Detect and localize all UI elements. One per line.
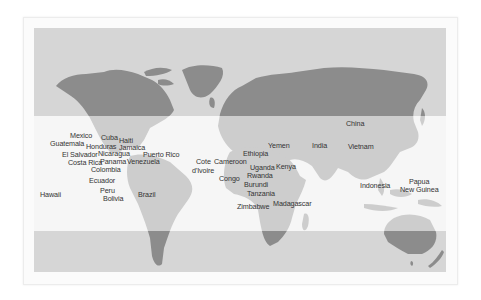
country-label-congo: Congo (219, 175, 240, 182)
country-label-cote-divoire: Cote (196, 158, 211, 165)
country-label-yemen: Yemen (268, 142, 290, 149)
country-label-colombia: Colombia (91, 166, 121, 173)
country-label-indonesia: Indonesia (360, 182, 390, 189)
country-label-rwanda: Rwanda (247, 172, 273, 179)
country-label-tanzania: Tanzania (247, 190, 275, 197)
country-label-papua: Papua (409, 178, 429, 185)
country-label-bolivia: Bolivia (103, 195, 123, 202)
country-label-venezuela: Venezuela (127, 158, 160, 165)
country-label-nicaragua: Nicaragua (98, 150, 130, 157)
country-label-panama: Panama (100, 158, 126, 165)
country-label-china: China (346, 120, 364, 127)
country-label-new-guinea: New Guinea (400, 186, 439, 193)
country-label-el-salvador: El Salvador (62, 151, 98, 158)
country-label-vietnam: Vietnam (348, 143, 374, 150)
country-label-hawaii: Hawaii (40, 191, 61, 198)
country-label-kenya: Kenya (276, 163, 296, 170)
country-label-uganda: Uganda (250, 164, 275, 171)
country-label-brazil: Brazil (138, 191, 155, 198)
country-label-burundi: Burundi (244, 181, 268, 188)
country-label-mexico: Mexico (70, 132, 92, 139)
country-label-cuba: Cuba (101, 134, 118, 141)
country-label-india: India (312, 142, 327, 149)
country-label-ethiopia: Ethiopia (243, 150, 268, 157)
country-label-cameroon: Cameroon (214, 158, 247, 165)
country-label-zimbabwe: Zimbabwe (237, 203, 269, 210)
country-label-peru: Peru (100, 187, 115, 194)
country-label-guatemala: Guatemala (50, 140, 84, 147)
country-label-cote-divoire-2: d'Ivoire (192, 167, 214, 174)
country-label-ecuador: Ecuador (89, 177, 115, 184)
country-label-madagascar: Madagascar (273, 200, 312, 207)
